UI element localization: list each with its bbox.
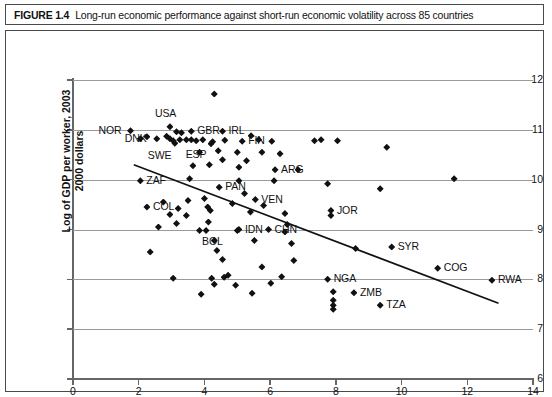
x-tick-label: 0	[58, 385, 88, 397]
data-point	[189, 162, 196, 169]
data-point	[318, 136, 325, 143]
data-point-label-syr: SYR	[398, 240, 419, 252]
data-point-syr	[388, 243, 395, 250]
data-point	[271, 177, 278, 184]
data-point-chn	[265, 226, 272, 233]
data-point	[206, 161, 213, 168]
data-point-fin	[239, 138, 246, 145]
data-point	[249, 290, 256, 297]
data-point	[205, 219, 212, 226]
figure-number: FIGURE 1.4	[14, 9, 69, 21]
figure-caption-bar: FIGURE 1.4 Long-run economic performance…	[5, 4, 544, 25]
data-point	[185, 197, 192, 204]
data-point-label-dnk: DNK	[125, 132, 147, 144]
data-point-label-esp: ESP	[186, 148, 207, 160]
x-tick-label: 8	[321, 385, 351, 397]
y-axis-title: Log of GDP per worker, 2003 2000 dollars	[60, 61, 86, 261]
data-point	[377, 185, 384, 192]
data-point-zmb	[350, 289, 357, 296]
data-point	[251, 237, 258, 244]
data-point	[211, 281, 218, 288]
x-tick-label: 4	[189, 385, 219, 397]
data-point-nga	[324, 276, 331, 283]
data-point-label-tza: TZA	[386, 298, 406, 310]
data-point	[247, 209, 254, 216]
x-tick-label: 2	[124, 385, 154, 397]
y-tick-mark	[67, 328, 73, 330]
y-tick-label: 7	[485, 322, 543, 334]
data-point	[183, 212, 190, 219]
data-point-cog	[434, 265, 441, 272]
data-point-ven	[252, 196, 259, 203]
data-point-arg	[272, 166, 279, 173]
data-point-label-jor: JOR	[337, 204, 358, 216]
data-point-zaf	[137, 177, 144, 184]
data-point	[176, 136, 183, 143]
figure-title: Long-run economic performance against sh…	[75, 9, 473, 21]
data-point	[451, 175, 458, 182]
data-point	[290, 257, 297, 264]
data-point-label-zmb: ZMB	[360, 286, 382, 298]
data-point	[213, 247, 220, 254]
y-tick-label: 6	[485, 372, 543, 384]
data-point	[211, 90, 218, 97]
trendline-svg	[6, 31, 545, 393]
x-tick-label: 14	[518, 385, 548, 397]
data-point-label-nga: NGA	[334, 272, 356, 284]
data-point	[166, 211, 173, 218]
data-point	[281, 210, 288, 217]
figure-frame: 678910111202468101214NORUSAGBRDNKSWEIRLE…	[5, 30, 544, 392]
y-tick-label: 10	[485, 173, 543, 185]
data-point-label-nor: NOR	[99, 124, 122, 136]
data-point	[383, 144, 390, 151]
data-point	[288, 240, 295, 247]
data-point	[219, 156, 226, 163]
y-tick-label: 9	[485, 223, 543, 235]
data-point	[235, 164, 242, 171]
data-point-label-irl: IRL	[229, 124, 245, 136]
y-tick-label: 12	[485, 73, 543, 85]
data-point	[208, 275, 215, 282]
data-point	[198, 291, 205, 298]
data-point	[170, 275, 177, 282]
data-point	[327, 212, 334, 219]
data-point-label-zaf: ZAF	[146, 174, 166, 186]
x-tick-label: 10	[387, 385, 417, 397]
data-point-bol	[203, 227, 210, 234]
data-point	[258, 263, 265, 270]
figure-page: FIGURE 1.4 Long-run economic performance…	[0, 0, 552, 397]
data-point	[234, 149, 241, 156]
data-point-col	[143, 204, 150, 211]
data-point-pan	[216, 184, 223, 191]
gridline-horizontal	[73, 279, 533, 280]
gridline-horizontal	[73, 329, 533, 330]
data-point-label-idn: IDN	[245, 223, 263, 235]
data-point-label-cog: COG	[444, 261, 468, 273]
data-point	[268, 138, 275, 145]
regression-trendline	[134, 165, 499, 304]
data-point	[175, 205, 182, 212]
data-point	[352, 245, 359, 252]
gridline-horizontal	[73, 230, 533, 231]
data-point	[330, 288, 337, 295]
data-point	[232, 282, 239, 289]
data-point	[277, 150, 284, 157]
data-point	[221, 137, 228, 144]
data-point	[267, 280, 274, 287]
data-point	[147, 248, 154, 255]
gridline-horizontal	[73, 80, 533, 81]
data-point	[196, 227, 203, 234]
data-point	[324, 180, 331, 187]
data-point	[215, 147, 222, 154]
data-point	[201, 195, 208, 202]
data-point	[243, 157, 250, 164]
y-axis-title-line2: 2000 dollars	[73, 131, 85, 192]
data-point-label-rwa: RWA	[498, 273, 522, 285]
y-tick-label: 11	[485, 123, 543, 135]
data-point	[219, 256, 226, 263]
data-point	[173, 220, 180, 227]
data-point-label-gbr: GBR	[197, 124, 219, 136]
data-point	[311, 137, 318, 144]
data-point	[258, 149, 265, 156]
data-point	[229, 200, 236, 207]
